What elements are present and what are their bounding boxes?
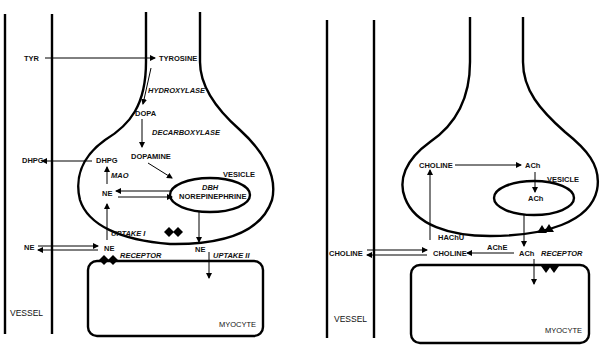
receptor-icon: [99, 255, 118, 265]
label-dhpg-out: DHPG: [22, 156, 44, 165]
label-ne-cyto: NE: [102, 189, 112, 198]
label-ne-release: NE: [195, 245, 205, 254]
left-panel: TYR TYROSINE HYDROXYLASE DOPA DECARBOXYL…: [5, 12, 273, 336]
label-ne-cleft: NE: [104, 244, 114, 253]
label-choline-in: CHOLINE: [419, 161, 453, 170]
diagram-stage: TYR TYROSINE HYDROXYLASE DOPA DECARBOXYL…: [0, 0, 603, 354]
label-ache: AChE: [487, 243, 507, 252]
label-uptake1: UPTAKE I: [111, 229, 146, 238]
label-ach-cyto: ACh: [525, 161, 541, 170]
label-dopamine: DOPAMINE: [131, 152, 171, 161]
label-uptake2: UPTAKE II: [213, 251, 250, 260]
label-dhpg-in: DHPG: [96, 156, 118, 165]
label-vesicle: VESICLE: [547, 175, 579, 184]
label-choline-vessel: CHOLINE: [329, 249, 363, 258]
receptor-icon: [541, 266, 559, 273]
label-decarboxylase: DECARBOXYLASE: [152, 128, 221, 137]
release-site-icon: [537, 224, 554, 233]
label-myocyte: MYOCYTE: [219, 320, 256, 329]
synapse-diagram: TYR TYROSINE HYDROXYLASE DOPA DECARBOXYL…: [0, 0, 603, 354]
label-hydroxylase: HYDROXYLASE: [148, 86, 206, 95]
label-ach-cleft: ACh: [519, 249, 535, 258]
label-receptor: RECEPTOR: [120, 251, 162, 260]
label-hachu: HAChU: [438, 233, 464, 242]
label-receptor: RECEPTOR: [541, 249, 583, 258]
label-dopa: DOPA: [135, 109, 157, 118]
label-vesicle: VESICLE: [223, 170, 255, 179]
label-tyrosine: TYROSINE: [159, 54, 197, 63]
label-choline-cleft: CHOLINE: [433, 249, 467, 258]
label-myocyte: MYOCYTE: [545, 326, 582, 335]
release-site-icon: [164, 227, 183, 237]
label-tyr: TYR: [24, 54, 40, 63]
label-ach-vesicle: ACh: [528, 194, 544, 203]
label-mao: MAO: [111, 171, 129, 180]
label-dbh: DBH: [202, 183, 219, 192]
label-ne-vessel: NE: [24, 243, 34, 252]
label-vessel: VESSEL: [334, 314, 367, 324]
label-vessel: VESSEL: [10, 308, 43, 318]
arrow-dopamine-vesicle: [148, 163, 172, 178]
label-norepinephrine: NOREPINEPHRINE: [179, 192, 247, 201]
right-panel: CHOLINE ACh VESICLE ACh HAChU CHOLINE CH…: [327, 17, 598, 343]
nerve-terminal-outline: [402, 17, 597, 236]
